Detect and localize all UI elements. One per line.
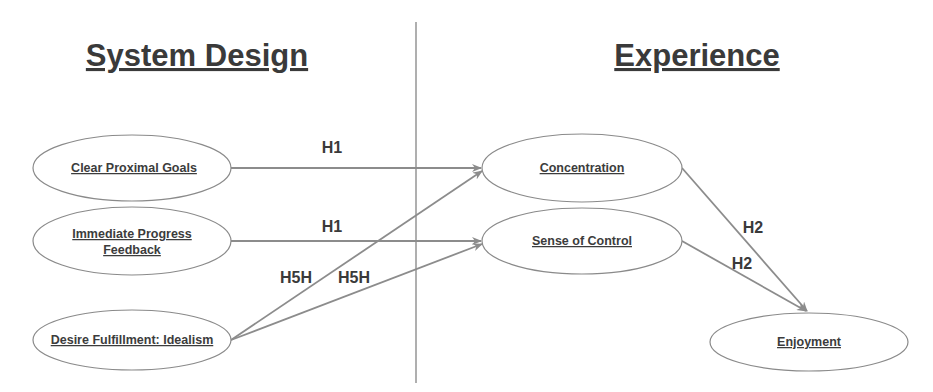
edge-label-h2-control: H2 [732,255,753,272]
edge-control-to-enjoyment [682,241,806,311]
node-label: Sense of Control [532,234,632,248]
node-label-line2: Feedback [103,243,161,257]
research-model-diagram: System Design Experience H1 H1 H5H H5H H… [0,0,933,392]
node-desire-fulfillment-idealism: Desire Fulfillment: Idealism [33,310,231,370]
node-label-line1: Immediate Progress [72,227,192,241]
edge-label-h5h-concentration: H5H [280,269,312,286]
section-title-experience: Experience [614,38,779,73]
edge-desire-to-control [231,244,482,340]
node-immediate-progress-feedback: Immediate Progress Feedback [33,207,231,275]
node-label: Enjoyment [777,335,842,349]
edge-concentration-to-enjoyment [682,168,807,311]
node-enjoyment: Enjoyment [710,313,908,371]
edge-label-h5h-control: H5H [338,269,370,286]
node-sense-of-control: Sense of Control [482,208,682,274]
node-concentration: Concentration [482,134,682,202]
node-label: Concentration [540,161,625,175]
edge-label-h2-concentration: H2 [743,219,764,236]
edge-desire-to-concentration [231,171,482,340]
node-clear-proximal-goals: Clear Proximal Goals [33,135,231,201]
edge-label-h1-feedback: H1 [322,218,343,235]
node-ellipse [33,207,231,275]
section-title-system-design: System Design [86,38,308,73]
node-label: Clear Proximal Goals [71,161,197,175]
node-label: Desire Fulfillment: Idealism [51,333,214,347]
edge-label-h1-goals: H1 [322,139,343,156]
